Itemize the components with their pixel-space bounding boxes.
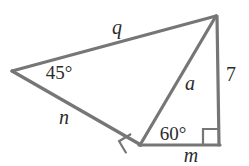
side-label-q: q xyxy=(112,17,122,37)
side-label-a: a xyxy=(185,73,195,93)
side-label-m: m xyxy=(184,145,198,165)
side-label-n: n xyxy=(59,107,69,127)
right-angle-mark-bottom-right xyxy=(203,129,218,144)
edge-n-line xyxy=(12,71,141,145)
side-label-7: 7 xyxy=(226,64,236,84)
angle-label-60: 60° xyxy=(160,124,187,143)
angle-label-45: 45° xyxy=(46,63,73,82)
edge-7-line xyxy=(217,16,219,145)
geometry-figure xyxy=(0,0,249,166)
